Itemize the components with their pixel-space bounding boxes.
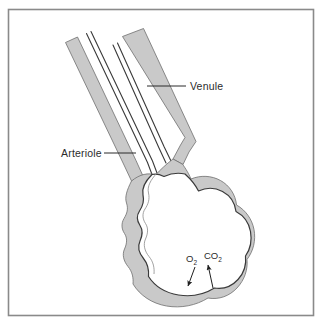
carbon-dioxide-subscript: 2 bbox=[218, 256, 222, 263]
arteriole-label: Arteriole bbox=[61, 147, 102, 159]
oxygen-symbol: O bbox=[186, 253, 193, 264]
diagram-canvas: Venule Arteriole O2 CO2 bbox=[0, 0, 323, 324]
capillary-bed-figure: Venule Arteriole O2 CO2 bbox=[0, 0, 323, 324]
carbon-dioxide-symbol: CO bbox=[204, 250, 218, 261]
venule-label: Venule bbox=[190, 80, 223, 92]
oxygen-subscript: 2 bbox=[193, 259, 197, 266]
